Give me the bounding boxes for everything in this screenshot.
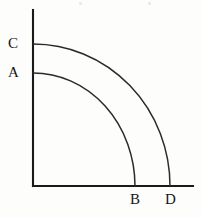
outer-curve <box>33 44 170 186</box>
axis-label-b: B <box>130 192 140 207</box>
figure-canvas: C A B D <box>0 0 201 217</box>
ppf-diagram <box>0 0 201 217</box>
axis-label-d: D <box>165 192 176 207</box>
inner-curve <box>33 73 135 186</box>
axis-label-a: A <box>8 65 19 80</box>
axis-label-c: C <box>8 36 18 51</box>
